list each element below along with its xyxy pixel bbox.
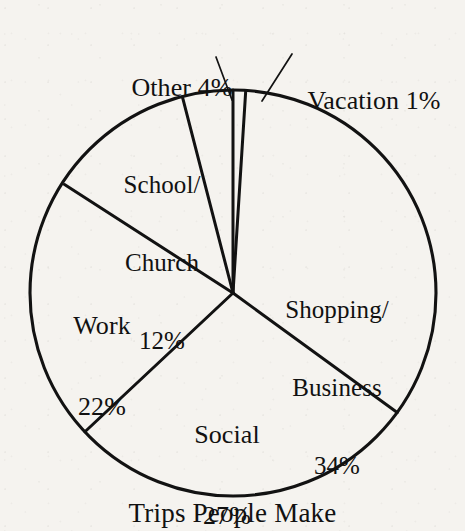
pie-label-other-text: Other 4%	[112, 74, 252, 101]
pie-label-shopping-business-line1: Shopping/	[248, 297, 426, 323]
pie-label-work-line1: Work	[28, 312, 176, 339]
pie-label-school-church-line1: School/	[96, 172, 228, 198]
pie-label-vacation-text: Vacation 1%	[288, 87, 460, 114]
pie-label-social-line1: Social	[152, 421, 302, 448]
pie-label-vacation: Vacation 1%	[288, 33, 460, 168]
chart-caption: Trips People Make	[0, 498, 465, 529]
pie-chart-figure: Other 4% Vacation 1% School/ Church 12% …	[0, 0, 465, 531]
